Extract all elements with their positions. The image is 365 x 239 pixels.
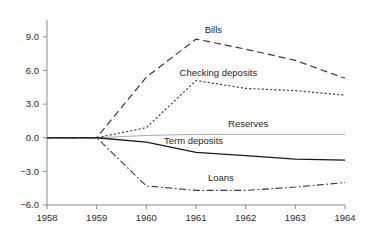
series-label: Reserves [228, 118, 268, 129]
series-line [47, 39, 345, 138]
series-label: Bills [205, 24, 223, 35]
x-tick-label: 1958 [36, 212, 57, 223]
series-label: Loans [208, 172, 234, 183]
y-tick-label: −3.0 [20, 166, 39, 177]
y-tick-label: 9.0 [26, 31, 39, 42]
y-tick-label: 3.0 [26, 98, 39, 109]
x-axis: 1958195919601961196219631964 [36, 205, 355, 223]
series-label: Term deposits [164, 135, 223, 146]
line-chart: 9.06.03.00.0−3.0−6.0 1958195919601961196… [0, 0, 365, 239]
y-tick-label: −6.0 [20, 199, 39, 210]
x-tick-label: 1960 [136, 212, 157, 223]
x-tick-label: 1959 [86, 212, 107, 223]
y-tick-label: 0.0 [26, 132, 39, 143]
y-tick-label: 6.0 [26, 65, 39, 76]
series-annotations: BillsChecking depositsReservesTerm depos… [164, 24, 269, 182]
series-line [47, 81, 345, 138]
x-tick-label: 1962 [235, 212, 256, 223]
series-label: Checking deposits [180, 67, 258, 78]
x-tick-label: 1963 [285, 212, 306, 223]
x-tick-label: 1964 [334, 212, 355, 223]
chart-svg: 9.06.03.00.0−3.0−6.0 1958195919601961196… [0, 0, 365, 239]
y-axis: 9.06.03.00.0−3.0−6.0 [20, 20, 47, 210]
x-tick-label: 1961 [185, 212, 206, 223]
series-layer [47, 39, 345, 190]
